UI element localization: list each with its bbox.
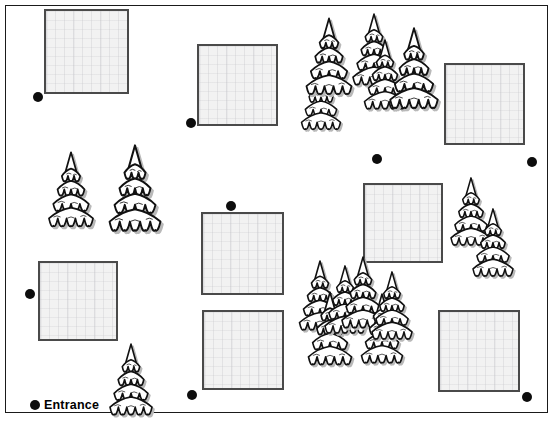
plot-bottom-center[interactable] (202, 310, 284, 390)
pine-tree-icon (44, 148, 98, 234)
pine-tree-icon (366, 268, 418, 346)
pine-tree-icon (103, 340, 159, 422)
marker-bottom-right[interactable] (522, 392, 532, 402)
pine-tree-icon (104, 140, 166, 240)
plot-mid-center[interactable] (201, 212, 284, 295)
plot-bottom-right[interactable] (438, 310, 520, 392)
pine-tree-icon (385, 12, 443, 128)
plot-mid-right[interactable] (363, 183, 443, 263)
marker-bottom-mid-left[interactable] (187, 390, 197, 400)
marker-center-top[interactable] (372, 154, 382, 164)
marker-right-edge[interactable] (527, 157, 537, 167)
pine-tree-icon (466, 205, 520, 283)
plot-top-right[interactable] (444, 63, 525, 145)
marker-top-left[interactable] (33, 92, 43, 102)
plot-top-left[interactable] (44, 9, 129, 94)
marker-entrance[interactable] (30, 400, 40, 410)
plot-mid-left[interactable] (38, 261, 118, 341)
marker-mid-center-top[interactable] (226, 201, 236, 211)
marker-mid-left[interactable] (25, 289, 35, 299)
entrance-label: Entrance (44, 398, 99, 412)
campsite-map: Entrance (0, 0, 556, 422)
marker-top-mid-left[interactable] (186, 118, 196, 128)
plot-top-mid-left[interactable] (197, 44, 278, 126)
